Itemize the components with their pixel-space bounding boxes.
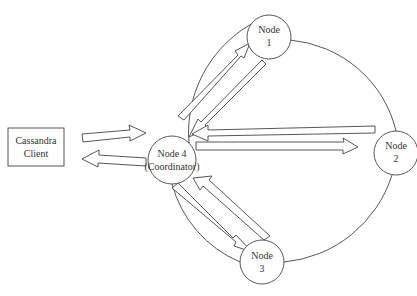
client-label-line2: Client — [24, 148, 49, 159]
node-2: Node 2 — [374, 131, 417, 175]
node1-label-line2: 1 — [267, 37, 272, 48]
arrow-client-to-coordinator — [82, 125, 146, 142]
coordinator-label-line1: Node 4 — [157, 148, 186, 159]
arrow-node3-to-coordinator — [193, 176, 270, 240]
ring-arc-2-3 — [284, 175, 392, 262]
node-1: Node 1 — [247, 15, 291, 59]
node3-label-line2: 3 — [260, 263, 265, 274]
client-label-line1: Cassandra — [15, 135, 57, 146]
node-3: Node 3 — [240, 240, 284, 284]
diagram-canvas: Cassandra Client Node 4 (Coordinator) No… — [0, 0, 417, 296]
coordinator-node: Node 4 (Coordinator) — [145, 136, 200, 184]
node3-label-line1: Node — [251, 250, 273, 261]
cassandra-client-box: Cassandra Client — [8, 128, 64, 166]
coordinator-label-line2: (Coordinator) — [145, 161, 200, 173]
node1-label-line1: Node — [258, 24, 280, 35]
ring-arc-1-2 — [290, 40, 396, 131]
arrow-node2-to-coordinator — [192, 125, 375, 141]
node2-label-line1: Node — [385, 140, 407, 151]
arrow-coordinator-to-client — [82, 150, 146, 167]
arrow-coordinator-to-node2 — [196, 138, 358, 154]
node2-label-line2: 2 — [394, 153, 399, 164]
